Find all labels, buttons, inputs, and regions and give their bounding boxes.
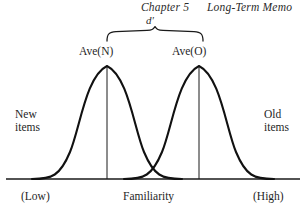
distribution-plot [0, 0, 306, 210]
axis-title: Familiarity [123, 190, 174, 202]
axis-label-low: (Low) [21, 190, 50, 202]
figure-page: Chapter 5 Long-Term Memo d' Ave(N) Ave(O… [0, 0, 306, 210]
label-new-items-line1: New [15, 108, 40, 121]
label-old-items: Old items [264, 108, 289, 134]
label-old-items-line1: Old [264, 108, 289, 121]
label-old-items-line2: items [264, 121, 289, 134]
label-new-items-line2: items [15, 121, 40, 134]
axis-label-high: (High) [253, 190, 284, 202]
label-new-items: New items [15, 108, 40, 134]
